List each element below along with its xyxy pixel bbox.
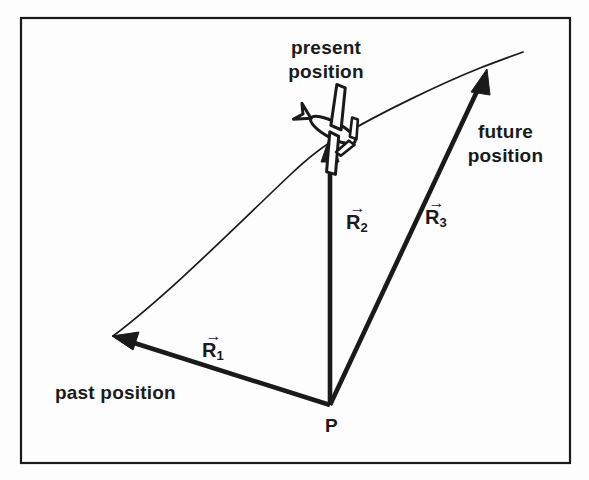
figure-container: present position future position past po… <box>0 0 589 480</box>
label-past-position: past position <box>55 381 176 405</box>
vector-name-r3: R3 <box>419 207 453 227</box>
vector-r2-arrow <box>321 136 339 405</box>
vector-base-r3: R <box>425 206 440 228</box>
vector-label-r2: → R2 <box>340 202 374 232</box>
vector-base-r1: R <box>202 339 217 361</box>
label-present-position: present position <box>265 36 387 84</box>
vector-name-r2: R2 <box>340 212 374 232</box>
vector-label-r1: → R1 <box>196 330 230 360</box>
vector-name-r1: R1 <box>196 340 230 360</box>
label-point-p: P <box>325 414 338 438</box>
label-future-position: future position <box>443 120 568 168</box>
present-position-line-1: present <box>291 37 361 58</box>
future-position-line-1: future <box>478 121 533 142</box>
vector-label-r3: → R3 <box>419 197 453 227</box>
vector-subscript-r1: 1 <box>217 348 224 363</box>
vector-subscript-r2: 2 <box>361 220 368 235</box>
vector-base-r2: R <box>346 211 361 233</box>
vector-subscript-r3: 3 <box>440 215 447 230</box>
flight-path-curve <box>113 52 523 336</box>
future-position-line-2: position <box>468 145 543 166</box>
present-position-line-2: position <box>288 61 363 82</box>
airplane-icon <box>279 73 376 177</box>
